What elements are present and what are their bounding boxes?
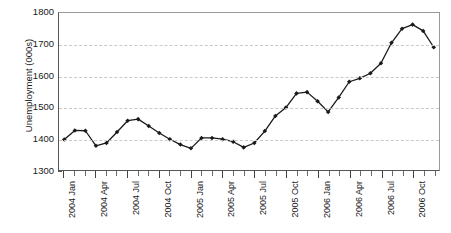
gridline: [59, 140, 439, 141]
series-line: [59, 13, 439, 170]
y-axis-tick-label: 1300: [14, 166, 54, 176]
y-axis-tick-label: 1500: [14, 102, 54, 112]
unemployment-line-chart: Unemployment (000s) 13001400150016001700…: [0, 0, 451, 233]
x-axis-tick-label: 2005 Jul: [258, 181, 268, 215]
x-axis-tick-mark: [159, 171, 160, 178]
x-axis-tick-mark: [329, 171, 330, 176]
x-axis-tick-label: 2005 Oct: [290, 181, 300, 218]
y-axis-tick-label: 1400: [14, 134, 54, 144]
x-axis-tick-label: 2006 Apr: [354, 181, 364, 217]
x-axis-tick-label: 2004 Apr: [99, 181, 109, 217]
x-axis-tick-mark: [286, 171, 287, 178]
x-axis-tick-mark: [360, 171, 361, 176]
x-axis-tick-mark: [212, 171, 213, 176]
x-axis-tick-mark: [222, 171, 223, 178]
x-axis-tick-label: 2006 Oct: [417, 181, 427, 218]
x-axis-tick-mark: [85, 171, 86, 176]
x-axis-tick-mark: [106, 171, 107, 176]
x-axis-tick-mark: [276, 171, 277, 176]
x-axis-tick-label: 2004 Jan: [67, 181, 77, 218]
series-polyline: [64, 25, 433, 149]
x-axis-tick-mark: [371, 171, 372, 176]
x-axis-tick-mark: [403, 171, 404, 176]
x-axis-tick-mark: [201, 171, 202, 176]
x-axis-tick-mark: [63, 171, 64, 178]
x-axis-tick-mark: [307, 171, 308, 176]
x-axis-tick-mark: [254, 171, 255, 178]
x-axis-tick-mark: [169, 171, 170, 176]
x-axis-tick-mark: [191, 171, 192, 178]
x-axis-tick-label: 2005 Apr: [226, 181, 236, 217]
x-axis-tick-label: 2005 Jan: [195, 181, 205, 218]
y-axis-tick-label: 1800: [14, 7, 54, 17]
x-axis-tick-mark: [127, 171, 128, 178]
x-axis-tick-mark: [350, 171, 351, 178]
x-axis-tick-label: 2004 Oct: [163, 181, 173, 218]
x-axis-tick-label: 2006 Jan: [322, 181, 332, 218]
x-axis-tick-mark: [74, 171, 75, 176]
x-axis-tick-label: 2004 Jul: [131, 181, 141, 215]
x-axis-tick-mark: [382, 171, 383, 178]
y-axis-tick-label: 1600: [14, 71, 54, 81]
gridline: [59, 77, 439, 78]
y-axis-tick-mark: [58, 171, 62, 172]
plot-area: [58, 12, 440, 171]
x-axis-tick-mark: [297, 171, 298, 176]
x-axis-tick-label: 2006 Jul: [386, 181, 396, 215]
x-axis-tick-mark: [318, 171, 319, 178]
x-axis-tick-mark: [116, 171, 117, 176]
x-axis-tick-mark: [413, 171, 414, 178]
x-axis-tick-mark: [339, 171, 340, 176]
x-axis-tick-mark: [435, 171, 436, 176]
gridline: [59, 108, 439, 109]
x-axis-tick-mark: [244, 171, 245, 176]
x-axis-tick-mark: [180, 171, 181, 176]
data-point-marker: [178, 142, 183, 147]
x-axis-tick-mark: [424, 171, 425, 176]
x-axis-tick-mark: [95, 171, 96, 178]
x-axis-tick-mark: [233, 171, 234, 176]
x-axis-tick-mark: [392, 171, 393, 176]
x-axis-tick-mark: [138, 171, 139, 176]
y-axis-tick-label: 1700: [14, 39, 54, 49]
data-point-marker: [241, 145, 246, 150]
x-axis-tick-mark: [265, 171, 266, 176]
x-axis-tick-mark: [148, 171, 149, 176]
gridline: [59, 45, 439, 46]
